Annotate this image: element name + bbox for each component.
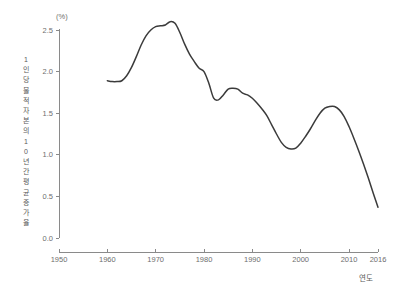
y-axis-title-char: 증 [23,199,30,206]
y-axis-title-char: 인 [23,65,29,73]
y-tick-label: 1.0 [43,150,53,159]
y-axis-title-char: 평 [23,177,29,185]
x-axis: 19501960197019801990200020102016 연도 [51,249,387,283]
y-axis-title-char: 자 [23,106,30,115]
y-tick-label: 2.5 [43,26,53,35]
series-line-growth-rate [107,22,378,208]
y-axis-title-char: 물 [23,87,30,94]
x-tick-group: 19501960197019801990200020102016 [51,249,387,264]
y-axis-title-char: 의 [23,126,29,135]
x-tick-label: 1970 [147,255,164,264]
x-tick-label: 1980 [196,255,213,264]
y-axis: 0.00.51.01.52.02.5 (%) 1인당물적자본의10년간평균증가율 [23,12,68,243]
x-axis-title: 연도 [359,274,373,283]
y-axis-title-char: 적 [23,96,29,105]
y-axis-unit-label: (%) [56,12,68,21]
y-axis-title-char: 본 [23,117,30,124]
x-tick-label: 2016 [370,255,387,264]
x-tick-label: 2000 [292,255,309,264]
y-axis-title-char: 년 [23,157,29,165]
y-tick-label: 0.0 [43,234,53,243]
plot-area [107,22,378,208]
y-tick-label: 2.0 [43,67,53,76]
y-axis-title-char: 가 [23,208,30,217]
y-axis-title-char: 당 [23,75,30,83]
line-chart: 0.00.51.01.52.02.5 (%) 1인당물적자본의10년간평균증가율… [0,0,400,292]
y-tick-group: 0.00.51.01.52.02.5 [43,26,59,243]
y-tick-label: 1.5 [43,109,53,118]
y-axis-title-char: 0 [24,148,28,155]
x-tick-label: 1990 [244,255,261,264]
y-axis-title-char: 1 [24,138,28,145]
y-axis-title-char: 1 [24,56,28,63]
y-tick-label: 0.5 [43,192,53,201]
x-tick-label: 2010 [341,255,358,264]
y-axis-title-char: 간 [23,167,30,175]
chart-page: 0.00.51.01.52.02.5 (%) 1인당물적자본의10년간평균증가율… [0,0,400,292]
x-tick-label: 1950 [51,255,68,264]
y-axis-title-char: 율 [23,219,30,226]
x-tick-label: 1960 [99,255,116,264]
y-axis-title: 1인당물적자본의10년간평균증가율 [23,56,30,226]
y-axis-title-char: 균 [23,189,30,196]
